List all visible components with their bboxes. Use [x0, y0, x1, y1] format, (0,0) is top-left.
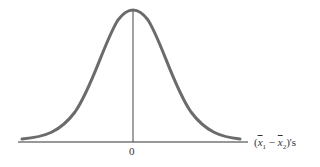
label-suffix: )'s [286, 136, 296, 148]
bell-curve [22, 10, 240, 139]
center-tick-label: 0 [129, 145, 135, 157]
x-axis-label: (x1 − x2)'s [254, 136, 296, 151]
label-minus: − [266, 136, 278, 148]
